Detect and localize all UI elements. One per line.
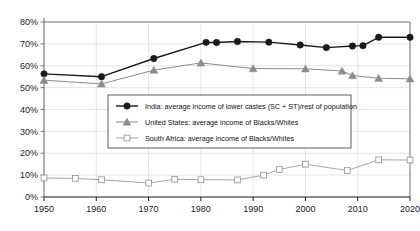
y-axis-tick-label: 30% xyxy=(20,127,38,137)
data-point xyxy=(40,76,48,83)
y-axis-tick-label: 10% xyxy=(20,170,38,180)
chart-container: 0%10%20%30%40%50%60%70%80%19501960197019… xyxy=(0,0,420,231)
data-point xyxy=(303,161,309,167)
x-axis-tick-label: 2010 xyxy=(348,204,368,214)
x-axis-tick-label: 1950 xyxy=(34,204,54,214)
data-point xyxy=(375,34,381,40)
series-line xyxy=(44,37,410,76)
x-axis-tick-label: 1960 xyxy=(86,204,106,214)
data-point xyxy=(349,72,357,79)
data-point xyxy=(172,176,178,182)
y-axis-tick-label: 70% xyxy=(20,39,38,49)
y-axis-tick-label: 0% xyxy=(25,192,38,202)
data-point xyxy=(203,39,209,45)
x-axis-tick-label: 1970 xyxy=(139,204,159,214)
data-point xyxy=(266,39,272,45)
data-point xyxy=(151,55,157,61)
y-axis-tick-label: 20% xyxy=(20,148,38,158)
data-point xyxy=(198,177,204,183)
legend-marker-icon xyxy=(124,103,130,109)
x-axis-tick-label: 1990 xyxy=(243,204,263,214)
x-axis-tick-label: 1980 xyxy=(191,204,211,214)
x-axis-tick-label: 2000 xyxy=(295,204,315,214)
y-axis-tick-label: 60% xyxy=(20,61,38,71)
data-point xyxy=(41,175,47,181)
data-point xyxy=(235,177,241,183)
data-point xyxy=(146,180,152,186)
data-point xyxy=(323,44,329,50)
series-south-africa xyxy=(41,157,413,186)
data-point xyxy=(234,38,240,44)
y-axis-tick-label: 50% xyxy=(20,83,38,93)
data-point xyxy=(213,39,219,45)
x-axis-tick-label: 2020 xyxy=(400,204,420,214)
legend-label: South Africa: average income of Blacks/W… xyxy=(145,134,294,143)
data-point xyxy=(99,177,105,183)
data-point xyxy=(197,59,205,66)
legend-label: United States: average income of Blacks/… xyxy=(145,118,299,127)
y-axis-tick-label: 40% xyxy=(20,105,38,115)
data-point xyxy=(360,42,366,48)
legend-marker-icon xyxy=(124,135,130,141)
legend-label: India: average income of lower castes (S… xyxy=(145,102,357,111)
y-axis-tick-label: 80% xyxy=(20,17,38,27)
data-point xyxy=(376,157,382,163)
data-point xyxy=(261,172,267,178)
data-point xyxy=(407,34,413,40)
data-point xyxy=(297,42,303,48)
data-point xyxy=(407,157,413,163)
chart-legend: India: average income of lower castes (S… xyxy=(108,95,357,148)
data-point xyxy=(72,176,78,182)
chart-svg: 0%10%20%30%40%50%60%70%80%19501960197019… xyxy=(0,0,420,231)
data-point xyxy=(98,73,104,79)
line-chart: 0%10%20%30%40%50%60%70%80%19501960197019… xyxy=(0,0,420,231)
data-point xyxy=(349,43,355,49)
data-point xyxy=(344,168,350,174)
data-point xyxy=(276,167,282,173)
series-india xyxy=(41,34,413,80)
